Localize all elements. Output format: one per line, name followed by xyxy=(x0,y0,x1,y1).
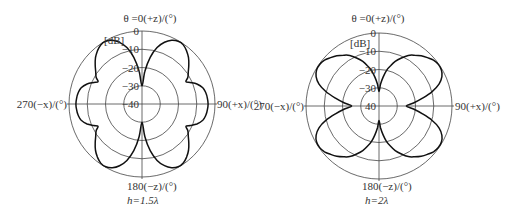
tick-minus40db: 40 xyxy=(365,100,377,112)
db-tick-labels: 0 −10 −20 −30 −40 xyxy=(122,25,140,110)
top-angle-label: θ =0(+z)/(°) xyxy=(352,12,405,25)
tick-minus40db: −40 xyxy=(122,98,140,110)
polar-plot-h2-lambda: θ =0(+z)/(°) [dB] 270(−x)/(°) 90(+x)/(°)… xyxy=(254,12,500,206)
tick-minus30db: −30 xyxy=(122,80,140,92)
tick-0db: 0 xyxy=(134,25,140,37)
tick-minus30db: −30 xyxy=(359,82,377,94)
height-caption: h=2λ xyxy=(365,194,388,206)
top-angle-label: θ =0(+z)/(°) xyxy=(124,12,177,25)
tick-minus20db: −20 xyxy=(359,64,377,76)
polar-pattern-diagram: θ =0(+z)/(°) [dB] 270(−x)/(°) 90(+x)/(°)… xyxy=(0,0,518,219)
tick-minus10db: −10 xyxy=(359,45,377,57)
height-caption: h=1.5λ xyxy=(127,194,159,206)
bottom-angle-label: 180(−z)/(°) xyxy=(127,180,177,193)
bottom-angle-label: 180(−z)/(°) xyxy=(362,180,412,193)
left-angle-label: 270(−x)/(°) xyxy=(254,100,305,113)
polar-plot-h1-5-lambda: θ =0(+z)/(°) [dB] 270(−x)/(°) 90(+x)/(°)… xyxy=(17,12,262,206)
tick-minus20db: −20 xyxy=(122,62,140,74)
tick-minus10db: −10 xyxy=(122,43,140,55)
left-angle-label: 270(−x)/(°) xyxy=(17,98,68,111)
tick-0db: 0 xyxy=(371,27,377,39)
right-angle-label: 90(+x)/(°) xyxy=(455,100,500,113)
